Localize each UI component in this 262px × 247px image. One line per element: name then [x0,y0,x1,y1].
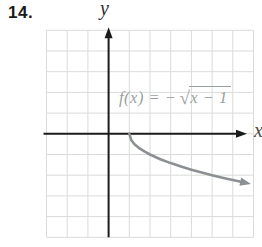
y-axis-arrowhead [105,27,113,38]
function-graph [0,0,262,247]
axes [44,35,240,237]
x-axis-label: x [254,119,262,142]
equation-prefix: f(x) = − [119,88,176,107]
curve-arrowhead [239,178,251,186]
equation-radicand: x − 1 [189,86,230,107]
equation-label: f(x) = −√x − 1 [119,87,231,109]
x-axis-arrowhead [236,130,247,138]
